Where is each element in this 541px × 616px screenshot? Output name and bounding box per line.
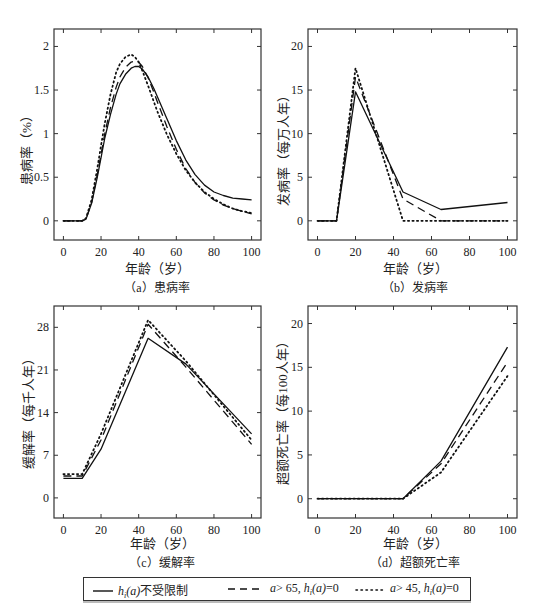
x-tick-label: 20 xyxy=(95,245,107,259)
y-tick-label: 1.5 xyxy=(34,83,49,97)
x-tick-label: 60 xyxy=(170,523,182,537)
chart-a-xlabel: 年龄（岁） xyxy=(125,261,190,276)
chart-c-ylabel: 缓解率（每千人年） xyxy=(21,352,36,469)
y-tick-label: 15 xyxy=(291,83,303,97)
y-tick-label: 0 xyxy=(297,214,303,228)
chart-a-ylabel: 患病率（%） xyxy=(19,109,34,185)
y-tick-label: 2 xyxy=(43,39,49,53)
x-tick-label: 40 xyxy=(388,245,400,259)
solid-line-swatch-icon xyxy=(92,585,114,597)
chart-c-axes: 02040608010007142128 xyxy=(37,306,261,537)
chart-d-ylabel: 超额死亡率（每100人年） xyxy=(275,335,290,485)
dashed-line-swatch-icon xyxy=(227,583,265,595)
legend-label-a-gt-45: a> 45, hi(a)=0 xyxy=(390,581,459,597)
plot-frame xyxy=(54,29,261,240)
plot-frame xyxy=(54,306,261,518)
chart-b-axes: 02040608010005101520 xyxy=(291,29,517,259)
chart-panel-d: 02040608010005101520 年龄（岁） （d）超额死亡率 超额死亡… xyxy=(270,300,541,575)
series-line-dashed xyxy=(318,362,508,499)
x-tick-label: 100 xyxy=(499,523,517,537)
chart-d-axes: 02040608010005101520 xyxy=(291,306,517,537)
chart-b-svg: 02040608010005101520 年龄（岁） （b）发病率 发病率（每万… xyxy=(270,0,541,300)
chart-b-caption: （b）发病率 xyxy=(382,280,448,295)
legend-label-a-gt-65: a> 65, hi(a)=0 xyxy=(270,581,339,597)
x-tick-label: 20 xyxy=(95,523,107,537)
y-tick-label: 0.5 xyxy=(34,170,49,184)
chart-d-svg: 02040608010005101520 年龄（岁） （d）超额死亡率 超额死亡… xyxy=(270,300,541,575)
chart-c-lines xyxy=(63,320,251,478)
series-line-solid xyxy=(318,92,508,221)
x-tick-label: 60 xyxy=(170,245,182,259)
series-line-dotted xyxy=(318,68,508,221)
y-tick-label: 14 xyxy=(37,406,49,420)
chart-d-lines xyxy=(318,347,508,499)
y-tick-label: 1 xyxy=(43,127,49,141)
y-tick-label: 20 xyxy=(291,317,303,331)
x-tick-label: 20 xyxy=(350,245,362,259)
x-tick-label: 80 xyxy=(208,523,220,537)
y-tick-label: 10 xyxy=(291,127,303,141)
chart-d-caption: （d）超额死亡率 xyxy=(370,555,460,570)
chart-b-lines xyxy=(318,68,508,221)
legend: hi(a)不受限制 a> 65, hi(a)=0 a> 45, hi(a)=0 xyxy=(83,577,471,601)
chart-c-xlabel: 年龄（岁） xyxy=(130,536,195,551)
legend-item-a-gt-45: a> 45, hi(a)=0 xyxy=(354,581,459,597)
chart-b-xlabel: 年龄（岁） xyxy=(383,261,448,276)
y-tick-label: 21 xyxy=(37,363,49,377)
y-tick-label: 7 xyxy=(43,448,49,462)
chart-a-caption: （a）患病率 xyxy=(124,280,189,295)
chart-a-svg: 02040608010000.511.52 年龄（岁） （a）患病率 患病率（%… xyxy=(0,0,270,300)
chart-a-lines xyxy=(63,54,251,221)
chart-c-svg: 02040608010007142128 年龄（岁） （c）缓解率 缓解率（每千… xyxy=(0,300,270,575)
chart-panel-a: 02040608010000.511.52 年龄（岁） （a）患病率 患病率（%… xyxy=(0,0,270,300)
x-tick-label: 80 xyxy=(464,523,476,537)
x-tick-label: 60 xyxy=(426,245,438,259)
x-tick-label: 0 xyxy=(60,245,66,259)
y-tick-label: 28 xyxy=(37,320,49,334)
x-tick-label: 100 xyxy=(243,523,261,537)
series-line-dotted xyxy=(63,320,251,474)
plot-frame xyxy=(308,306,517,518)
chart-panel-b: 02040608010005101520 年龄（岁） （b）发病率 发病率（每万… xyxy=(270,0,541,300)
y-tick-label: 0 xyxy=(43,491,49,505)
x-tick-label: 80 xyxy=(464,245,476,259)
y-tick-label: 5 xyxy=(297,170,303,184)
dotted-line-swatch-icon xyxy=(354,583,386,595)
y-tick-label: 0 xyxy=(297,492,303,506)
legend-label-unrestricted: hi(a)不受限制 xyxy=(118,581,188,600)
x-tick-label: 40 xyxy=(133,245,145,259)
plot-frame xyxy=(308,29,517,240)
x-tick-label: 20 xyxy=(350,523,362,537)
y-tick-label: 5 xyxy=(297,448,303,462)
x-tick-label: 40 xyxy=(133,523,145,537)
x-tick-label: 0 xyxy=(60,523,66,537)
x-tick-label: 0 xyxy=(315,245,321,259)
x-tick-label: 60 xyxy=(426,523,438,537)
chart-c-caption: （c）缓解率 xyxy=(129,555,194,570)
series-line-solid xyxy=(318,347,508,499)
x-tick-label: 0 xyxy=(315,523,321,537)
x-tick-label: 100 xyxy=(243,245,261,259)
chart-d-xlabel: 年龄（岁） xyxy=(383,536,448,551)
x-tick-label: 100 xyxy=(499,245,517,259)
chart-panel-c: 02040608010007142128 年龄（岁） （c）缓解率 缓解率（每千… xyxy=(0,300,270,575)
x-tick-label: 80 xyxy=(208,245,220,259)
chart-b-ylabel: 发病率（每万人年） xyxy=(276,89,291,206)
y-tick-label: 15 xyxy=(291,360,303,374)
chart-a-axes: 02040608010000.511.52 xyxy=(34,29,261,259)
y-tick-label: 10 xyxy=(291,404,303,418)
y-tick-label: 20 xyxy=(291,39,303,53)
series-line-dotted xyxy=(318,376,508,499)
legend-item-a-gt-65: a> 65, hi(a)=0 xyxy=(227,581,339,597)
y-tick-label: 0 xyxy=(43,214,49,228)
x-tick-label: 40 xyxy=(388,523,400,537)
legend-item-unrestricted: hi(a)不受限制 xyxy=(92,581,188,600)
